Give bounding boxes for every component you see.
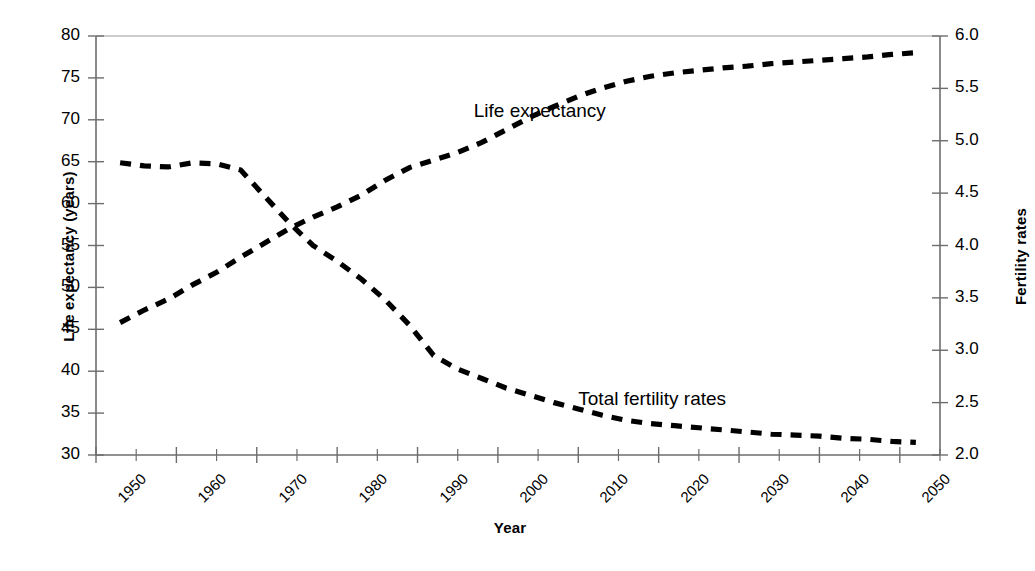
series-annotation-2: Total fertility rates [578,388,726,410]
left-tick-label: 55 [34,235,80,255]
left-tick-label: 75 [34,67,80,87]
left-tick-label: 50 [34,276,80,296]
right-tick-label: 6.0 [955,25,1005,45]
right-tick-label: 2.0 [955,444,1005,464]
right-tick-label: 4.5 [955,182,1005,202]
chart-figure: Life expectancy (years) Fertility rates … [0,0,1035,571]
right-tick-label: 3.5 [955,287,1005,307]
y-axis-right-title: Fertility rates [1012,47,1029,467]
left-tick-label: 45 [34,318,80,338]
right-tick-label: 3.0 [955,339,1005,359]
left-tick-label: 35 [34,402,80,422]
right-tick-label: 5.5 [955,77,1005,97]
left-tick-label: 80 [34,25,80,45]
x-axis-title: Year [410,519,610,536]
right-tick-label: 5.0 [955,130,1005,150]
left-tick-label: 60 [34,193,80,213]
left-tick-label: 30 [34,444,80,464]
left-tick-label: 65 [34,151,80,171]
left-tick-label: 40 [34,360,80,380]
right-tick-label: 4.0 [955,235,1005,255]
left-tick-label: 70 [34,109,80,129]
chart-plot-area [0,0,1035,571]
series-annotation-1: Life expectancy [474,100,606,122]
right-tick-label: 2.5 [955,392,1005,412]
series-line-1 [120,53,916,323]
series-line-2 [120,163,916,443]
